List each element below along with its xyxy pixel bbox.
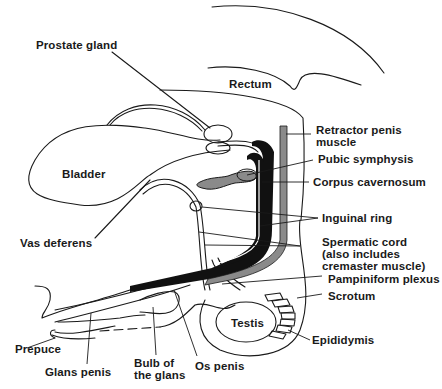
bladder-outline <box>29 125 230 205</box>
label-corpus-cavernosum: Corpus cavernosum <box>313 176 426 188</box>
label-vas-deferens: Vas deferens <box>20 237 92 249</box>
label-os-penis: Os penis <box>195 360 244 372</box>
label-scrotum: Scrotum <box>328 290 375 302</box>
label-rectum: Rectum <box>229 78 272 90</box>
anatomy-diagram: Prostate gland Rectum Bladder Retractor … <box>0 0 442 389</box>
label-bulb-of-the-glans: Bulb of the glans <box>134 357 185 381</box>
prostate-leader <box>112 52 210 128</box>
label-spermatic-cord: Spermatic cord (also includes cremaster … <box>322 236 425 272</box>
body-outline <box>212 6 384 73</box>
label-epididymis: Epididymis <box>312 334 374 346</box>
label-testis: Testis <box>231 317 264 329</box>
label-pubic-symphysis: Pubic symphysis <box>318 153 413 165</box>
label-retractor-penis-muscle: Retractor penis muscle <box>316 124 402 148</box>
label-pampiniform-plexus: Pampiniform plexus <box>328 273 440 285</box>
scrotum-outline <box>200 220 306 356</box>
label-bladder: Bladder <box>62 168 106 180</box>
label-prepuce: Prepuce <box>15 343 61 355</box>
label-inguinal-ring: Inguinal ring <box>322 212 392 224</box>
epididymis <box>265 293 295 339</box>
label-prostate-gland: Prostate gland <box>36 39 117 51</box>
diagram-drawing <box>0 0 442 389</box>
pubic-symphysis <box>197 171 256 189</box>
label-glans-penis: Glans penis <box>45 366 111 378</box>
